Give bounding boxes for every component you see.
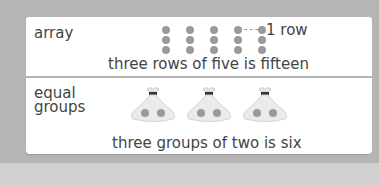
array-dot: [234, 46, 242, 54]
array-dot: [186, 36, 194, 44]
row-annotation: 1 row: [266, 23, 308, 38]
array-card: array 1 row three rows of five is fiftee…: [26, 17, 372, 76]
array-dot: [258, 36, 266, 44]
array-dot: [162, 26, 170, 34]
array-dot: [210, 26, 218, 34]
groups-card: equal groups three groups of two is six: [26, 78, 372, 154]
array-dot: [210, 46, 218, 54]
bag-icon: [128, 86, 178, 126]
bag-icon: [184, 86, 234, 126]
groups-caption: three groups of two is six: [112, 136, 302, 151]
row-pointer-line: [244, 29, 264, 30]
array-dot: [162, 36, 170, 44]
array-dot: [234, 26, 242, 34]
array-dot: [186, 26, 194, 34]
array-label: array: [34, 26, 73, 41]
background-strip: [0, 163, 379, 185]
array-dot: [234, 36, 242, 44]
array-dot: [186, 46, 194, 54]
array-dot: [210, 36, 218, 44]
groups-label-line2: groups: [34, 100, 85, 115]
array-dot: [162, 46, 170, 54]
bag-icon: [240, 86, 290, 126]
array-caption: three rows of five is fifteen: [108, 57, 309, 72]
array-dot: [258, 46, 266, 54]
array-dot: [258, 26, 266, 34]
